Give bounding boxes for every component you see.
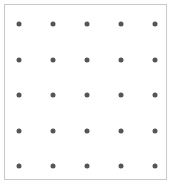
grid-dot	[51, 129, 56, 134]
grid-dot	[85, 129, 90, 134]
grid-dot	[51, 164, 56, 169]
grid-dot	[85, 164, 90, 169]
grid-dot	[119, 93, 124, 98]
grid-dot	[119, 129, 124, 134]
grid-dot	[153, 129, 158, 134]
grid-dot	[119, 22, 124, 27]
grid-dot	[85, 58, 90, 63]
grid-dot	[119, 164, 124, 169]
grid-dot	[85, 22, 90, 27]
grid-dot	[153, 164, 158, 169]
grid-dot	[17, 58, 22, 63]
grid-dot	[17, 22, 22, 27]
grid-dot	[51, 22, 56, 27]
grid-dot	[153, 58, 158, 63]
grid-dot	[51, 93, 56, 98]
grid-dot	[119, 58, 124, 63]
dot-grid-plot-area	[0, 0, 172, 184]
grid-dot	[153, 22, 158, 27]
grid-dot	[51, 58, 56, 63]
dot-grid-panel	[0, 0, 172, 184]
grid-dot	[17, 93, 22, 98]
grid-dot	[153, 93, 158, 98]
grid-dot	[85, 93, 90, 98]
grid-dot	[17, 129, 22, 134]
grid-dot	[17, 164, 22, 169]
